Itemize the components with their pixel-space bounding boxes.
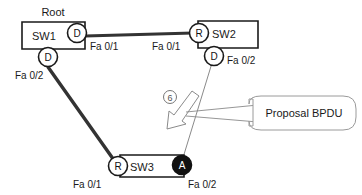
sw2-port-fa02[interactable]: D xyxy=(205,47,224,66)
proposal-bpdu-callout[interactable]: Proposal BPDU xyxy=(249,96,356,130)
sw3-name: SW3 xyxy=(130,161,154,173)
switch-node-sw1[interactable]: SW1 Root D D xyxy=(22,6,87,67)
sw3-port-fa02-role: A xyxy=(179,160,186,171)
label-sw3-fa02: Fa 0/2 xyxy=(188,179,217,190)
switch-node-sw3[interactable]: SW3 R A xyxy=(109,155,192,177)
step-marker-6: 6 xyxy=(164,91,177,104)
sw2-port-fa01[interactable]: R xyxy=(190,24,209,43)
sw2-name: SW2 xyxy=(212,28,236,40)
sw1-port-fa02[interactable]: D xyxy=(39,48,58,67)
sw1-port-fa01-role: D xyxy=(73,28,80,39)
label-sw2-fa01: Fa 0/1 xyxy=(152,41,181,52)
label-sw1-fa01: Fa 0/1 xyxy=(90,41,119,52)
sw1-port-fa02-role: D xyxy=(44,52,51,63)
root-bridge-label: Root xyxy=(41,6,64,18)
sw2-port-fa01-role: R xyxy=(195,28,202,39)
label-sw3-fa01: Fa 0/1 xyxy=(73,179,102,190)
step-marker-6-label: 6 xyxy=(167,93,172,103)
callout-leader-upper xyxy=(186,105,258,112)
callout-leader-lower xyxy=(186,116,258,122)
sw3-port-fa02[interactable]: A xyxy=(173,156,192,175)
link-sw1-sw3 xyxy=(48,67,116,163)
link-sw1-sw2 xyxy=(85,33,193,36)
label-sw1-fa02: Fa 0/2 xyxy=(15,70,44,81)
sw1-port-fa01[interactable]: D xyxy=(68,24,87,43)
network-diagram: SW1 Root D D SW2 R xyxy=(0,0,362,195)
sw1-name: SW1 xyxy=(32,30,56,42)
sw3-port-fa01[interactable]: R xyxy=(109,157,128,176)
sw3-port-fa01-role: R xyxy=(114,161,121,172)
callout-label: Proposal BPDU xyxy=(265,107,342,119)
diagram-canvas: SW1 Root D D SW2 R xyxy=(0,0,362,195)
label-sw2-fa02: Fa 0/2 xyxy=(227,55,256,66)
sw2-port-fa02-role: D xyxy=(210,51,217,62)
